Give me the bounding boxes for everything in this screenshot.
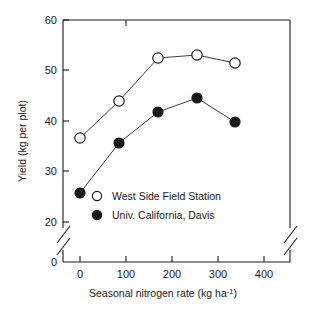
data-point-filled-0 (75, 188, 85, 198)
x-axis-tick-labels: 0 100 200 300 400 (77, 268, 273, 280)
legend-item-davis: Univ. California, Davis (92, 209, 214, 221)
data-point-open-1 (114, 96, 124, 106)
y-tick-label-40: 40 (45, 115, 57, 127)
data-point-open-2 (153, 53, 163, 63)
x-tick-label-0: 0 (77, 268, 83, 280)
y-axis-tick-labels: 60 50 40 30 20 0 (45, 14, 57, 268)
legend-item-west-side: West Side Field Station (92, 190, 221, 202)
series-west-side-field-station (75, 50, 240, 143)
y-axis-ticks (63, 20, 69, 222)
data-point-open-0 (75, 133, 85, 143)
series-univ-california-davis (75, 93, 240, 198)
y-tick-label-60: 60 (45, 14, 57, 26)
y-axis-title: Yield (kg per plot) (16, 100, 28, 182)
y-tick-label-0: 0 (51, 256, 57, 268)
x-tick-label-400: 400 (255, 268, 273, 280)
x-axis-ticks (80, 20, 264, 262)
x-tick-label-100: 100 (117, 268, 135, 280)
data-point-filled-2 (153, 107, 163, 117)
y-tick-label-50: 50 (45, 64, 57, 76)
x-tick-label-300: 300 (209, 268, 227, 280)
x-axis-title: Seasonal nitrogen rate (kg ha-1) (89, 287, 237, 300)
chart-legend: West Side Field Station Univ. California… (92, 190, 221, 221)
legend-label-davis: Univ. California, Davis (112, 209, 215, 221)
x-tick-label-200: 200 (163, 268, 181, 280)
data-point-open-4 (230, 58, 240, 68)
data-point-open-3 (192, 50, 202, 60)
legend-open-circle-icon (92, 191, 101, 200)
data-point-filled-4 (230, 117, 240, 127)
chart-figure: 60 50 40 30 20 0 0 100 200 300 400 Seaso… (0, 0, 326, 315)
chart-svg: 60 50 40 30 20 0 0 100 200 300 400 Seaso… (0, 0, 326, 315)
data-point-filled-3 (192, 93, 202, 103)
data-point-filled-1 (114, 138, 124, 148)
y-tick-label-30: 30 (45, 165, 57, 177)
y-tick-label-20: 20 (45, 216, 57, 228)
legend-filled-circle-icon (92, 210, 101, 219)
legend-label-west-side: West Side Field Station (112, 190, 221, 202)
